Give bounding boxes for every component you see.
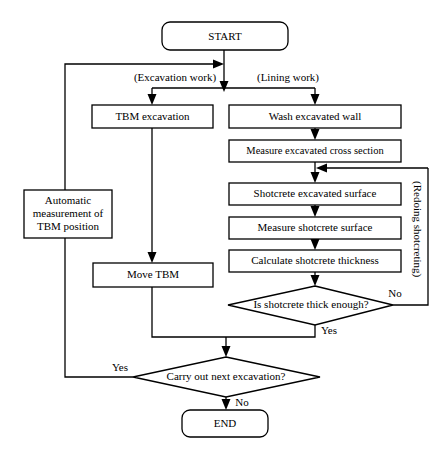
automatic-measurement-line1: Automatic [45, 194, 92, 206]
arrowhead-redoing-return [316, 164, 327, 173]
arrowhead-shotcrete-decision [311, 275, 320, 286]
node-end[interactable]: END [182, 410, 268, 437]
start-label: START [208, 30, 242, 42]
arrowhead-calculate-thickness [311, 239, 320, 250]
wash-excavated-wall-label: Wash excavated wall [269, 110, 362, 122]
arrowhead-move-tbm [148, 252, 157, 263]
label-carry-yes: Yes [112, 361, 128, 373]
node-start[interactable]: START [162, 22, 288, 50]
node-wash-excavated-wall[interactable]: Wash excavated wall [229, 105, 401, 128]
arrowhead-measure-shotcrete [311, 206, 320, 217]
measure-excavated-cross-section-label: Measure excavated cross section [246, 145, 384, 156]
is-shotcrete-thick-enough-label: Is shotcrete thick enough? [253, 298, 368, 310]
flowchart-svg: START TBM excavation Wash excavated wall… [0, 0, 442, 457]
node-is-shotcrete-thick-enough[interactable]: Is shotcrete thick enough? [228, 286, 393, 325]
end-label: END [214, 417, 237, 429]
node-calculate-shotcrete-thickness[interactable]: Calculate shotcrete thickness [229, 250, 401, 272]
arrowhead-start-branch [220, 81, 229, 92]
flowchart-canvas: START TBM excavation Wash excavated wall… [0, 0, 442, 457]
node-carry-out-next-excavation[interactable]: Carry out next excavation? [133, 357, 320, 397]
arrowhead-carry-decision [222, 346, 231, 357]
tbm-excavation-label: TBM excavation [115, 110, 190, 122]
node-automatic-measurement[interactable]: Automatic measurement of TBM position [24, 190, 112, 238]
move-tbm-label: Move TBM [127, 268, 179, 280]
node-measure-shotcrete-surface[interactable]: Measure shotcrete surface [229, 217, 401, 239]
label-excavation-work: (Excavation work) [134, 71, 216, 84]
node-move-tbm[interactable]: Move TBM [93, 263, 213, 287]
arrowhead-end [222, 399, 231, 410]
shotcrete-excavated-surface-label: Shotcrete excavated surface [254, 187, 377, 199]
arrowhead-tbm-excavation [148, 94, 157, 105]
edge-shotcrete-yes [226, 325, 315, 337]
automatic-measurement-line2: measurement of [33, 207, 104, 219]
edge-move-tbm-down [152, 287, 226, 337]
measure-shotcrete-surface-label: Measure shotcrete surface [258, 221, 373, 233]
carry-out-next-excavation-label: Carry out next excavation? [167, 370, 286, 382]
calculate-shotcrete-thickness-label: Calculate shotcrete thickness [251, 254, 379, 266]
arrowhead-measure-cross [311, 129, 320, 140]
label-lining-work: (Lining work) [257, 71, 319, 84]
label-carry-no: No [235, 396, 249, 408]
node-shotcrete-excavated-surface[interactable]: Shotcrete excavated surface [229, 183, 401, 205]
label-shotcrete-yes: Yes [321, 324, 337, 336]
label-redoing-shotcreting: (Redoing shotcreting) [411, 181, 424, 278]
arrowhead-wash-wall [311, 94, 320, 105]
automatic-measurement-line3: TBM position [37, 220, 100, 232]
node-tbm-excavation[interactable]: TBM excavation [92, 105, 213, 128]
arrowhead-carry-yes-loop [213, 60, 224, 69]
label-shotcrete-no: No [388, 287, 402, 299]
arrowhead-shotcrete-surface [311, 172, 320, 183]
node-measure-excavated-cross-section[interactable]: Measure excavated cross section [229, 140, 401, 162]
